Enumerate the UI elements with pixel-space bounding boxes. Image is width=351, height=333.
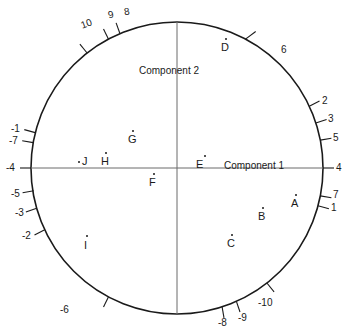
data-point-dot-C <box>231 234 233 236</box>
tick-label-8: 8 <box>123 7 130 18</box>
data-point-dot-B <box>262 207 264 209</box>
data-point-dot-H <box>105 152 107 154</box>
tick-label-minus-7: -7 <box>9 136 18 146</box>
tick-mark-minus-6 <box>104 297 109 307</box>
tick-mark-minus-5 <box>23 191 34 193</box>
tick-label-minus-2: -2 <box>22 231 31 241</box>
data-point-label-H: H <box>101 156 109 167</box>
tick-label-minus-1: -1 <box>11 124 20 134</box>
tick-mark-minus-7 <box>22 141 33 143</box>
data-point-dot-A <box>295 194 297 196</box>
tick-mark-minus-2 <box>35 230 45 235</box>
data-point-dot-I <box>86 235 88 237</box>
tick-label-5: 5 <box>333 133 339 143</box>
tick-label-minus-10: -10 <box>258 298 272 308</box>
tick-label-6: 6 <box>281 45 287 55</box>
tick-mark-2 <box>309 101 319 106</box>
tick-mark-1 <box>318 206 329 209</box>
tick-mark-minus-9 <box>236 301 240 312</box>
tick-label-2: 2 <box>322 96 328 106</box>
data-point-dot-J <box>78 161 80 163</box>
data-point-label-G: G <box>128 134 137 145</box>
data-point-dot-E <box>204 155 206 157</box>
tick-mark-minus-10 <box>267 283 274 292</box>
tick-label-3: 3 <box>328 114 334 124</box>
axis-title-component-2: Component 2 <box>139 66 199 76</box>
tick-mark-7 <box>320 196 331 198</box>
tick-mark-minus-3 <box>26 208 37 212</box>
data-point-label-C: C <box>227 238 235 249</box>
tick-label-minus-9: -9 <box>238 313 247 323</box>
tick-label-minus-8: -8 <box>218 318 227 328</box>
tick-label-minus-5: -5 <box>11 189 20 199</box>
tick-label-1: 1 <box>331 203 337 213</box>
tick-label-9: 9 <box>107 10 115 21</box>
tick-mark-10 <box>80 44 87 53</box>
tick-label-minus-3: -3 <box>15 208 24 218</box>
data-point-label-D: D <box>221 42 229 53</box>
tick-mark-8 <box>116 23 120 34</box>
tick-mark-9 <box>104 29 109 39</box>
tick-label-minus-4: -4 <box>6 163 15 173</box>
data-point-dot-G <box>132 130 134 132</box>
tick-mark-6 <box>246 32 256 40</box>
data-point-label-J: J <box>82 156 88 167</box>
chart-canvas <box>0 0 351 333</box>
tick-label-4: 4 <box>336 163 342 173</box>
data-point-dot-D <box>225 38 227 40</box>
axis-title-component-1: Component 1 <box>224 161 284 171</box>
data-point-label-B: B <box>258 211 265 222</box>
data-point-label-E: E <box>196 159 203 170</box>
component-biplot-chart: 10 9 8 6 2 3 5 4 7 1 -10 -9 -8 -6 -2 -3 … <box>0 0 351 333</box>
tick-label-7: 7 <box>333 190 339 200</box>
data-point-dot-F <box>153 173 155 175</box>
tick-label-minus-6: -6 <box>60 305 69 315</box>
data-point-label-F: F <box>149 177 156 188</box>
tick-mark-5 <box>320 138 331 140</box>
tick-mark-3 <box>316 119 327 123</box>
data-point-label-I: I <box>84 240 87 251</box>
data-point-label-A: A <box>291 198 298 209</box>
tick-mark-minus-1 <box>24 130 35 133</box>
